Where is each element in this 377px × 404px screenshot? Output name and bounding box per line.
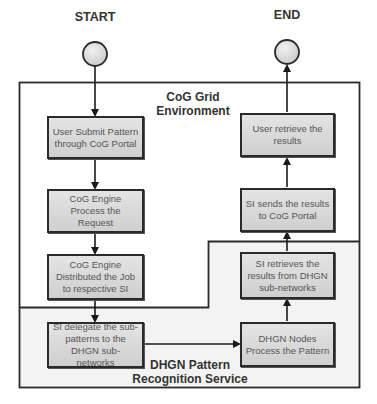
dhgn-label-line2: Recognition Service [120, 372, 260, 386]
cog-grid-region-label: CoG Grid Environment [143, 90, 243, 118]
node-user-retrieve: User retrieve the results [240, 113, 335, 157]
node-dhgn-process: DHGN Nodes Process the Pattern [240, 322, 335, 367]
node-si-retrieve: SI retrieves the results from DHGN sub-n… [240, 252, 335, 299]
node-user-submit: User Submit Pattern through CoG Portal [47, 116, 144, 159]
end-node-icon [275, 40, 299, 64]
node-si-send: SI sends the results to CoG Portal [240, 188, 335, 232]
cog-grid-label-line2: Environment [143, 104, 243, 118]
node-cog-distribute: CoG Engine Distributed the Job to respec… [47, 254, 144, 300]
start-label: START [55, 10, 135, 24]
end-label: END [247, 8, 327, 22]
node-si-delegate: SI delegate the sub-patterns to the DHGN… [47, 322, 144, 368]
flowchart: START END CoG Grid Environment DHGN Patt… [0, 0, 377, 404]
cog-grid-label-line1: CoG Grid [143, 90, 243, 104]
start-node-icon [83, 42, 107, 66]
node-cog-process: CoG Engine Process the Request [47, 189, 144, 233]
